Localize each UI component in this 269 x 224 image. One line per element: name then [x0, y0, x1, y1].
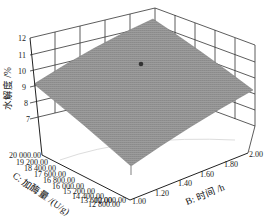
svg-text:1.60: 1.60 — [200, 170, 214, 179]
svg-text:1.40: 1.40 — [178, 179, 192, 188]
svg-text:1.00: 1.00 — [132, 197, 146, 206]
svg-text:1.20: 1.20 — [155, 189, 169, 198]
svg-text:10: 10 — [18, 67, 26, 76]
svg-text:7: 7 — [26, 115, 30, 124]
svg-text:12 000.00: 12 000.00 — [94, 196, 126, 205]
design-point-marker — [139, 62, 144, 67]
response-surface — [34, 19, 253, 166]
svg-text:1.80: 1.80 — [224, 160, 238, 169]
svg-text:9: 9 — [22, 83, 26, 92]
svg-text:12: 12 — [18, 34, 26, 43]
z-axis-ticks: 12 11 10 9 8 7 — [18, 34, 30, 124]
svg-text:8: 8 — [24, 99, 28, 108]
response-surface-plot: 12 11 10 9 8 7 水解度 /% 20 000.00 19 200.0… — [0, 0, 269, 224]
svg-text:2.00: 2.00 — [249, 150, 263, 159]
svg-text:11: 11 — [18, 51, 26, 60]
z-axis-label: 水解度 /% — [2, 67, 13, 110]
